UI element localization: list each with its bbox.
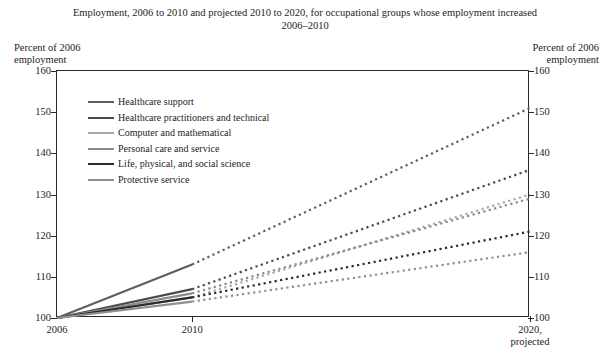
y-tick-label-l-130: 130 xyxy=(35,190,51,200)
y-tick-label-l-110: 110 xyxy=(36,272,51,282)
legend-swatch-icon xyxy=(88,117,114,119)
series-line-projected-3 xyxy=(192,199,530,294)
legend-swatch-icon xyxy=(88,179,114,181)
y-tick-l-150 xyxy=(51,112,57,113)
legend-item-label: Computer and mathematical xyxy=(118,127,231,139)
y-tick-l-130 xyxy=(51,195,57,196)
x-tick-label-2006: 2006 xyxy=(47,324,68,336)
legend-item[interactable]: Protective service xyxy=(88,174,269,186)
y-tick-l-120 xyxy=(51,236,57,237)
x-tick-2020 xyxy=(530,316,531,322)
legend-item-label: Life, physical, and social science xyxy=(118,158,250,170)
legend-item-label: Personal care and service xyxy=(118,143,219,155)
legend-item[interactable]: Life, physical, and social science xyxy=(88,158,269,170)
y-tick-label-l-150: 150 xyxy=(35,107,51,117)
legend-swatch-icon xyxy=(88,163,114,165)
series-line-projected-5 xyxy=(192,252,530,301)
x-tick-label-2020: 2020, projected xyxy=(510,324,549,348)
y-tick-label-l-100: 100 xyxy=(35,313,51,323)
series-line-projected-4 xyxy=(192,232,530,298)
y-tick-label-r-130: 130 xyxy=(534,190,550,200)
y-tick-l-100 xyxy=(51,318,57,319)
legend-item-label: Healthcare practitioners and technical xyxy=(118,112,269,124)
y-tick-l-140 xyxy=(51,153,57,154)
legend-item[interactable]: Personal care and service xyxy=(88,143,269,155)
y-tick-label-r-140: 140 xyxy=(534,148,550,158)
y-tick-l-110 xyxy=(51,277,57,278)
chart-container: Employment, 2006 to 2010 and projected 2… xyxy=(0,0,609,364)
series-line-projected-1 xyxy=(192,170,530,289)
legend-swatch-icon xyxy=(88,132,114,134)
legend-item-label: Protective service xyxy=(118,174,189,186)
right-axis-caption: Percent of 2006 employment xyxy=(533,42,599,66)
legend-item[interactable]: Healthcare support xyxy=(88,96,269,108)
y-tick-label-r-120: 120 xyxy=(534,231,550,241)
y-tick-label-r-110: 110 xyxy=(534,272,549,282)
y-tick-label-r-100: 100 xyxy=(534,313,550,323)
legend-swatch-icon xyxy=(88,101,114,103)
y-tick-label-l-160: 160 xyxy=(35,66,51,76)
legend-item[interactable]: Computer and mathematical xyxy=(88,127,269,139)
y-tick-label-r-160: 160 xyxy=(534,66,550,76)
y-tick-label-l-120: 120 xyxy=(35,231,51,241)
chart-legend: Healthcare supportHealthcare practitione… xyxy=(88,96,269,186)
y-tick-label-r-150: 150 xyxy=(534,107,550,117)
legend-item-label: Healthcare support xyxy=(118,96,194,108)
left-axis-caption: Percent of 2006 employment xyxy=(14,42,80,66)
x-tick-2010 xyxy=(192,316,193,322)
legend-item[interactable]: Healthcare practitioners and technical xyxy=(88,112,269,124)
x-tick-label-2010: 2010 xyxy=(182,324,203,336)
legend-swatch-icon xyxy=(88,148,114,150)
chart-title: Employment, 2006 to 2010 and projected 2… xyxy=(60,6,550,32)
y-tick-label-l-140: 140 xyxy=(35,148,51,158)
y-tick-l-160 xyxy=(51,71,57,72)
